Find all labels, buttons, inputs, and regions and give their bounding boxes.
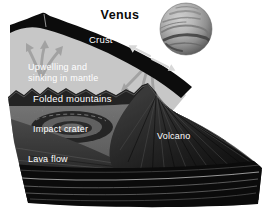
volcano-label: Volcano	[157, 131, 190, 141]
upwelling-label-line1: Upwelling and	[28, 62, 87, 72]
folded-mountains-label: Folded mountains	[33, 93, 112, 104]
diagram-canvas: Venus Crust Upwelling and sinking in man…	[0, 0, 268, 212]
impact-crater-label: Impact crater	[33, 124, 88, 134]
lava-flow-label: Lava flow	[28, 154, 68, 164]
venus-globe-icon	[160, 3, 212, 55]
venus-geology-diagram: Venus Crust Upwelling and sinking in man…	[0, 0, 268, 212]
crust-label: Crust	[89, 34, 113, 45]
page-title: Venus	[101, 8, 140, 22]
upwelling-label-line2: sinking in mantle	[28, 73, 98, 83]
